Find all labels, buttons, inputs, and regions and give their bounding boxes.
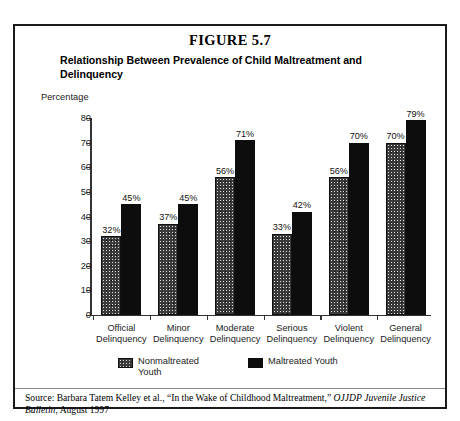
- x-category-label-line: Delinquency: [153, 334, 204, 345]
- y-tick-mark: [86, 192, 90, 193]
- x-category-label-line: Delinquency: [96, 334, 147, 345]
- chart-subtitle: Relationship Between Prevalence of Child…: [60, 54, 390, 81]
- x-category-label: ModerateDelinquency: [210, 323, 261, 345]
- bar-maltreated: [292, 212, 312, 315]
- bar-value-label: 32%: [102, 225, 120, 235]
- y-tick-mark: [86, 266, 90, 267]
- source-publisher: OJJDP: [334, 392, 362, 403]
- x-category-label-line: Delinquency: [210, 334, 261, 345]
- bar-nonmaltreated: [272, 234, 292, 315]
- y-tick-mark: [86, 143, 90, 144]
- y-tick-mark: [86, 167, 90, 168]
- y-tick-mark: [86, 315, 90, 316]
- bar-maltreated: [235, 140, 255, 315]
- legend-label: Nonmaltreated Youth: [138, 356, 212, 378]
- source-note: Source: Barbara Tatem Kelley et al., “In…: [25, 392, 437, 417]
- bar-nonmaltreated: [158, 224, 178, 315]
- bar-value-label: 79%: [406, 109, 424, 119]
- bar-value-label: 42%: [293, 200, 311, 210]
- x-category-label: ViolentDelinquency: [323, 323, 374, 345]
- x-category-label-line: Delinquency: [323, 334, 374, 345]
- x-category-label-line: Violent: [323, 323, 374, 334]
- bar-value-label: 70%: [386, 131, 404, 141]
- x-tick-mark: [377, 315, 378, 320]
- chart-legend: Nonmaltreated YouthMaltreated Youth: [15, 356, 445, 378]
- x-category-label-line: Moderate: [210, 323, 261, 334]
- source-date: , August 1997: [55, 404, 109, 415]
- y-tick-mark: [86, 290, 90, 291]
- bar-maltreated: [349, 143, 369, 315]
- y-tick-mark: [86, 217, 90, 218]
- bar-value-label: 56%: [216, 166, 234, 176]
- figure-number: FIGURE 5.7: [15, 32, 445, 49]
- x-tick-mark: [320, 315, 321, 320]
- bar-value-label: 56%: [330, 166, 348, 176]
- x-category-label-line: Minor: [153, 323, 204, 334]
- x-tick-mark: [93, 315, 94, 320]
- bar-nonmaltreated: [329, 177, 349, 315]
- bar-nonmaltreated: [386, 143, 406, 315]
- x-category-label: SeriousDelinquency: [267, 323, 318, 345]
- bar-value-label: 45%: [122, 193, 140, 203]
- legend-swatch-icon: [118, 358, 133, 368]
- bar-nonmaltreated: [215, 177, 235, 315]
- bar-nonmaltreated: [101, 236, 121, 315]
- bar-value-label: 37%: [159, 212, 177, 222]
- x-category-label-line: Serious: [267, 323, 318, 334]
- figure-container: FIGURE 5.7 Relationship Between Prevalen…: [13, 24, 447, 409]
- bar-value-label: 71%: [236, 129, 254, 139]
- y-tick-mark: [86, 118, 90, 119]
- x-category-label: MinorDelinquency: [153, 323, 204, 345]
- legend-label: Maltreated Youth: [268, 356, 342, 367]
- source-divider: [15, 388, 445, 389]
- bar-chart-plot: 01020304050607080 32%45%37%45%56%71%33%4…: [64, 114, 431, 319]
- bar-value-label: 70%: [350, 131, 368, 141]
- x-category-label: GeneralDelinquency: [380, 323, 431, 345]
- x-category-label: OfficialDelinquency: [96, 323, 147, 345]
- bar-value-label: 33%: [273, 222, 291, 232]
- bar-value-label: 45%: [179, 193, 197, 203]
- x-category-label-line: Delinquency: [267, 334, 318, 345]
- bar-maltreated: [121, 204, 141, 315]
- source-text: Source: Barbara Tatem Kelley et al., “In…: [25, 392, 334, 403]
- legend-item: Nonmaltreated Youth: [118, 356, 212, 378]
- x-tick-mark: [264, 315, 265, 320]
- x-tick-mark: [150, 315, 151, 320]
- bar-maltreated: [178, 204, 198, 315]
- legend-swatch-icon: [248, 358, 263, 368]
- legend-item: Maltreated Youth: [248, 356, 342, 378]
- bar-maltreated: [406, 120, 426, 315]
- y-tick-mark: [86, 241, 90, 242]
- x-tick-mark: [207, 315, 208, 320]
- x-category-label-line: Official: [96, 323, 147, 334]
- x-category-label-line: General: [380, 323, 431, 334]
- x-category-label-line: Delinquency: [380, 334, 431, 345]
- y-axis-unit-label: Percentage: [41, 92, 89, 102]
